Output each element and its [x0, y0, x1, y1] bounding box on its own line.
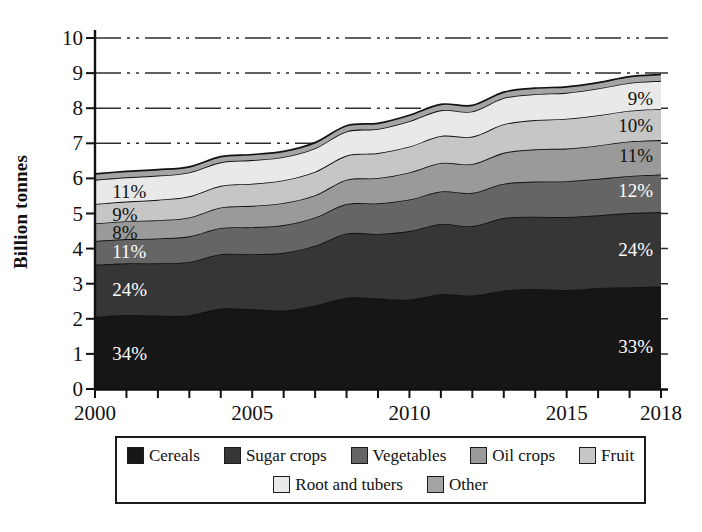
crop-production-stacked-area-figure: 0123456789102000200520102015201811%9%8%1…	[0, 0, 702, 532]
legend-swatch-sugar-crops	[224, 447, 241, 464]
percent-label-fruit: 10%	[618, 115, 653, 136]
legend-swatch-cereals	[127, 447, 144, 464]
legend-row-1: CerealsSugar cropsVegetablesOil cropsFru…	[117, 443, 644, 469]
y-tick-label-2: 2	[73, 307, 84, 331]
percent-label-cereals: 33%	[618, 336, 653, 357]
y-tick-label-8: 8	[73, 96, 84, 120]
legend-label-sugar-crops: Sugar crops	[246, 446, 327, 466]
legend-item-other: Other	[427, 475, 488, 495]
percent-label-vegetables: 11%	[112, 241, 146, 262]
percent-label-cereals: 34%	[112, 343, 147, 364]
percent-label-root-and-tubers: 11%	[112, 181, 146, 202]
x-tick-label-2000: 2000	[74, 401, 116, 425]
percent-label-oil-crops: 11%	[619, 145, 653, 166]
legend-swatch-other	[427, 476, 444, 493]
legend-swatch-vegetables	[351, 447, 368, 464]
x-tick-label-2005: 2005	[231, 401, 273, 425]
legend-swatch-oil-crops	[470, 447, 487, 464]
legend-item-oil-crops: Oil crops	[470, 446, 555, 466]
y-tick-label-1: 1	[73, 342, 84, 366]
percent-label-sugar-crops: 24%	[112, 279, 147, 300]
legend-label-root-and-tubers: Root and tubers	[295, 475, 403, 495]
legend-label-other: Other	[449, 475, 488, 495]
percent-label-sugar-crops: 24%	[618, 239, 653, 260]
legend-item-cereals: Cereals	[127, 446, 200, 466]
y-tick-label-10: 10	[62, 26, 83, 50]
y-axis-title: Billion tonnes	[10, 155, 32, 269]
legend-label-fruit: Fruit	[601, 446, 634, 466]
legend-label-vegetables: Vegetables	[373, 446, 447, 466]
y-tick-label-5: 5	[73, 202, 84, 226]
y-tick-label-9: 9	[73, 61, 84, 85]
legend-label-cereals: Cereals	[149, 446, 200, 466]
percent-label-oil-crops: 8%	[112, 222, 137, 243]
y-tick-label-7: 7	[73, 131, 84, 155]
legend-item-vegetables: Vegetables	[351, 446, 447, 466]
legend-item-root-and-tubers: Root and tubers	[273, 475, 403, 495]
y-tick-label-0: 0	[73, 377, 84, 401]
x-tick-label-2010: 2010	[388, 401, 430, 425]
x-tick-label-2015: 2015	[546, 401, 588, 425]
percent-label-vegetables: 12%	[618, 180, 653, 201]
legend-item-fruit: Fruit	[579, 446, 634, 466]
legend-swatch-root-and-tubers	[273, 476, 290, 493]
y-tick-label-3: 3	[73, 272, 84, 296]
y-tick-label-6: 6	[73, 166, 84, 190]
legend-item-sugar-crops: Sugar crops	[224, 446, 327, 466]
y-tick-label-4: 4	[73, 237, 84, 261]
legend-row-2: Root and tubersOther	[117, 472, 644, 498]
legend: CerealsSugar cropsVegetablesOil cropsFru…	[115, 436, 646, 504]
x-tick-label-2018: 2018	[640, 401, 682, 425]
percent-label-root-and-tubers: 9%	[628, 88, 654, 109]
legend-label-oil-crops: Oil crops	[492, 446, 555, 466]
legend-swatch-fruit	[579, 447, 596, 464]
